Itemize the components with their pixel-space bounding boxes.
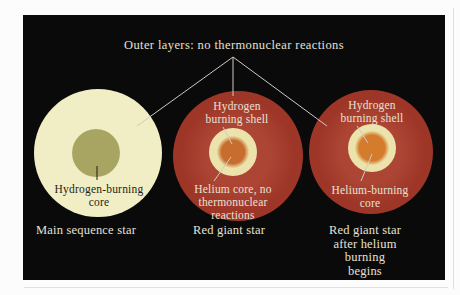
red-giant-shell-label: Hydrogen burning shell (206, 100, 269, 126)
main-sequence-star-core (72, 129, 120, 177)
red-giant-shell-and-core (209, 128, 257, 176)
red-giant-after-core-label: Helium-burning core (332, 184, 409, 210)
red-giant-after-shell-and-core (348, 124, 396, 172)
scan-edge-right (453, 8, 454, 289)
main-sequence-caption: Main sequence star (36, 224, 136, 238)
stellar-evolution-figure: Outer layers: no thermonuclear reactions… (0, 0, 460, 295)
main-sequence-core-label: Hydrogen-burning core (55, 183, 144, 209)
red-giant-after-caption: Red giant star after helium burning begi… (318, 224, 413, 278)
red-giant-core-label: Helium core, no thermonuclear reactions (194, 183, 271, 222)
outer-layers-label: Outer layers: no thermonuclear reactions (124, 39, 344, 52)
red-giant-after-shell-label: Hydrogen burning shell (341, 99, 404, 125)
scan-edge-bottom (24, 287, 448, 288)
red-giant-caption: Red giant star (193, 224, 265, 238)
